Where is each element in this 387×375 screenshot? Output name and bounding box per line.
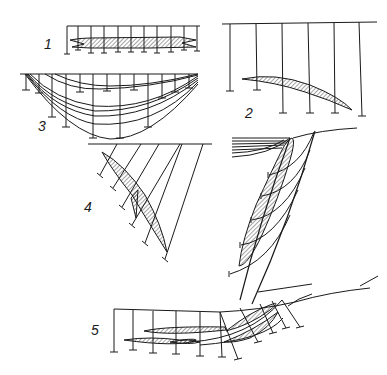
panel-3: 3 — [20, 74, 198, 139]
panel-1-label: 1 — [44, 36, 52, 52]
panel-5-label: 5 — [91, 322, 99, 338]
panel-4-ore-body-right — [239, 138, 294, 266]
diagram-figure: 1 2 — [0, 0, 387, 375]
panel-2-ore-body — [242, 77, 352, 110]
panel-4-right — [229, 128, 357, 304]
panel-5-ore-body-inclined-upper — [226, 303, 276, 331]
panel-1-ore-body — [70, 37, 196, 48]
panel-4-label: 4 — [84, 199, 92, 215]
panel-2-label: 2 — [244, 105, 253, 121]
panel-4-left: 4 — [84, 144, 212, 262]
panel-2-boreholes — [226, 22, 366, 116]
panel-5: 5 — [91, 276, 378, 360]
panel-5-ore-lens-upper — [144, 327, 226, 333]
panel-2: 2 — [222, 22, 377, 121]
panel-3-label: 3 — [38, 118, 46, 134]
panel-1: 1 — [44, 26, 200, 54]
panel-3-strata — [25, 74, 198, 139]
